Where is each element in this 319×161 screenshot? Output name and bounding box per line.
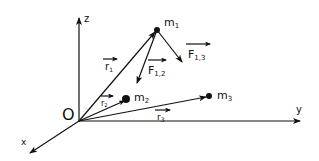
F13-label: F1,3 xyxy=(188,48,205,62)
diagram-canvas: z y x O m1 m2 m3 r1 r2 r3 F1,2 F1,3 xyxy=(0,0,319,161)
m2-label: m2 xyxy=(134,91,149,105)
z-axis-label: z xyxy=(84,13,89,24)
x-axis-label: x xyxy=(21,137,27,147)
F12-label-group: F1,2 xyxy=(148,60,166,78)
m1-label: m1 xyxy=(164,16,179,30)
r2-label: r2 xyxy=(101,99,107,108)
F13-label-group: F1,3 xyxy=(186,44,210,62)
F12-label: F1,2 xyxy=(148,64,165,78)
m3-label: m3 xyxy=(217,89,232,103)
r1-label: r1 xyxy=(105,61,113,73)
mass-m3-point xyxy=(206,93,212,99)
mass-m1-point xyxy=(154,27,160,33)
mass-m2-point xyxy=(122,95,130,103)
x-axis xyxy=(30,121,79,153)
r3-label: r3 xyxy=(157,112,165,123)
y-axis-label: y xyxy=(296,104,302,115)
F13-vector xyxy=(157,30,182,62)
origin-label: O xyxy=(62,105,75,124)
r1-vector xyxy=(79,32,155,121)
r1-label-group: r1 xyxy=(103,59,117,73)
